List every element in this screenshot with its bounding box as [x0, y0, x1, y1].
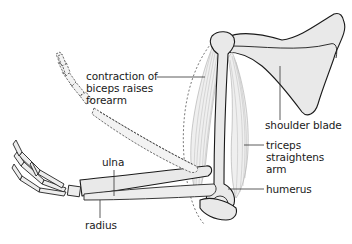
triceps-label: triceps straightens arm — [266, 139, 324, 175]
shoulder-blade-label-line-1: shoulder blade — [265, 119, 342, 131]
ulna-label-line-1: ulna — [102, 156, 124, 168]
biceps-label: contraction of biceps raises forearm — [86, 70, 158, 106]
triceps-label-line-3: arm — [266, 163, 324, 175]
shoulder-blade-label: shoulder blade — [265, 119, 342, 131]
arm-muscle-diagram: contraction of biceps raises forearm sho… — [0, 0, 352, 244]
radius-label-line-1: radius — [85, 219, 117, 231]
radius-label: radius — [85, 219, 117, 231]
biceps-label-line-1: contraction of — [86, 70, 158, 82]
humerus-label: humerus — [266, 183, 312, 195]
ulna-label: ulna — [102, 156, 124, 168]
triceps-label-line-2: straightens — [266, 151, 324, 163]
hand-extended — [12, 140, 81, 197]
biceps-label-line-3: forearm — [86, 94, 158, 106]
biceps-label-line-2: biceps raises — [86, 82, 158, 94]
triceps-label-line-1: triceps — [266, 139, 324, 151]
humerus-label-line-1: humerus — [266, 183, 312, 195]
